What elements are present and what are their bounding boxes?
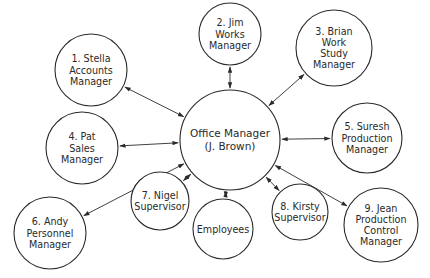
node-label-stella-line-1: 1. Stella [71,53,110,64]
node-label-pat-line-3: Manager [61,154,103,165]
node-label-stella-line-2: Accounts [69,65,113,76]
node-label-suresh-line-1: 5. Suresh [344,121,389,132]
node-label-pat-line-1: 4. Pat [68,131,95,142]
node-label-employees-line-1: Employees [197,224,250,235]
edge-office-manager-to-kirsty [266,177,279,190]
node-suresh: 5. SureshProductionManager [332,103,402,173]
node-andy: 6. AndyPersonnelManager [14,197,86,269]
node-jean: 9. JeanProductionControlManager [344,188,418,262]
node-label-office-manager-line-1: Office Manager [190,127,271,139]
node-pat: 4. PatSalesManager [46,112,118,184]
edge-office-manager-to-stella [125,87,184,117]
node-label-office-manager-line-2: (J. Brown) [205,140,256,152]
node-label-jim-line-2: Works [215,29,244,40]
node-label-jean-line-2: Production [355,214,406,225]
node-label-kirsty-line-2: Supervisor [274,212,325,223]
node-jim: 2. JimWorksManager [199,3,261,65]
node-label-brian-line-1: 3. Brian [315,26,352,37]
node-stella: 1. StellaAccountsManager [55,34,127,106]
node-label-jean-line-4: Manager [360,236,402,247]
node-label-stella-line-3: Manager [70,76,112,87]
node-label-brian-line-4: Manager [313,59,355,70]
node-label-jim-line-3: Manager [209,40,251,51]
node-employees: Employees [193,199,253,259]
node-label-jean-line-1: 9. Jean [365,203,398,214]
node-nigel: 7. NigelSupervisor [131,172,189,230]
edge-office-manager-to-nigel [183,174,190,180]
node-label-nigel-line-1: 7. Nigel [142,190,179,201]
edge-office-manager-to-brian [269,75,304,106]
node-label-jim-line-1: 2. Jim [216,17,243,28]
node-label-brian-line-3: Study [320,48,348,59]
node-label-andy-line-2: Personnel [27,228,74,239]
nodes-layer: Office Manager(J. Brown)1. StellaAccount… [14,3,418,269]
node-label-jean-line-3: Control [364,225,399,236]
node-label-suresh-line-2: Production [341,133,392,144]
communication-diagram: Office Manager(J. Brown)1. StellaAccount… [0,0,430,278]
edge-office-manager-to-suresh [282,139,330,140]
node-label-nigel-line-2: Supervisor [134,201,185,212]
node-label-andy-line-3: Manager [29,239,71,250]
edge-office-manager-to-pat [120,143,178,146]
node-label-suresh-line-3: Manager [346,144,388,155]
node-office-manager: Office Manager(J. Brown) [180,90,280,190]
node-label-brian-line-2: Work [322,37,347,48]
node-kirsty: 8. KirstySupervisor [272,184,328,240]
node-brian: 3. BrianWorkStudyManager [296,10,372,86]
node-label-pat-line-2: Sales [69,143,95,154]
node-label-kirsty-line-1: 8. Kirsty [280,201,320,212]
node-label-andy-line-1: 6. Andy [32,216,69,227]
